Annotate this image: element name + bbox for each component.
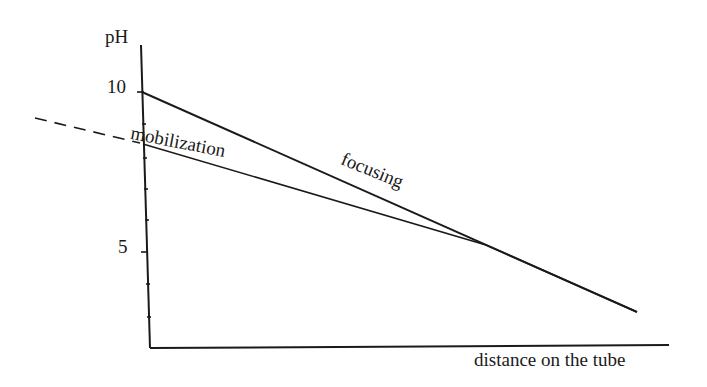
y-tick-label-5: 5 — [118, 236, 128, 258]
y-axis-label: pH — [105, 26, 128, 48]
diagram-canvas — [0, 0, 707, 387]
y-tick-label-10: 10 — [107, 76, 126, 98]
x-axis — [150, 345, 669, 348]
y-axis — [141, 45, 150, 348]
x-axis-label: distance on the tube — [474, 349, 625, 371]
mobilization-dashed-extension — [35, 118, 140, 143]
